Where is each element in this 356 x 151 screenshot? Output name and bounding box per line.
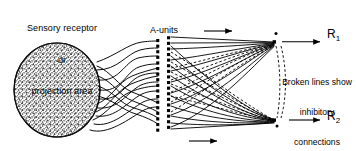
r2-base: R	[327, 109, 336, 123]
a-units-label: A-units	[150, 25, 178, 35]
diagram-canvas: Sensory receptor or projection area A-un…	[0, 0, 356, 151]
a-unit-column-left	[156, 39, 159, 132]
sensory-label-line-1: Sensory receptor	[6, 23, 118, 34]
response-label-r1: R1	[327, 28, 340, 44]
a-unit-column-right	[167, 36, 170, 129]
sensory-label-line-2: or	[6, 55, 118, 66]
broken-lines-legend: Broken lines show inhibitory connections	[278, 58, 356, 151]
broken-legend-line-1: Broken lines show	[278, 77, 356, 88]
r1-base: R	[327, 27, 336, 41]
broken-legend-line-2: inhibitory	[278, 107, 356, 118]
sensory-label-line-3: projection area	[6, 86, 118, 97]
response-node-r1	[273, 40, 276, 43]
broken-legend-line-3: connections	[278, 137, 356, 148]
sensory-receptor-label: Sensory receptor or projection area	[6, 3, 118, 117]
response-node-r2	[273, 118, 276, 121]
response-label-r2: R2	[327, 110, 340, 126]
r1-subscript: 1	[336, 34, 340, 43]
r2-subscript: 2	[336, 116, 340, 125]
